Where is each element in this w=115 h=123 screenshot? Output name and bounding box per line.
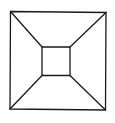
connector-bottom-left [10,76,42,110]
inner-square [42,47,70,76]
frustum-diagram [0,0,115,123]
connector-top-right [70,13,106,48]
connector-top-left [11,12,43,48]
connector-bottom-right [70,76,106,111]
